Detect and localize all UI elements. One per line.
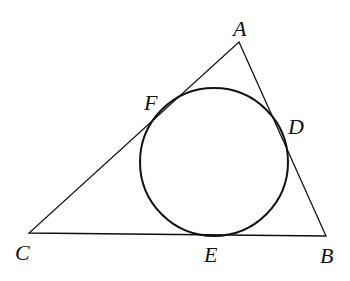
label-d: D [287,114,304,139]
label-b: B [320,243,333,268]
label-f: F [143,90,158,115]
incircle [140,88,288,236]
triangle-abc [29,42,326,236]
geometry-diagram: A F D C E B [0,0,350,281]
label-a: A [231,16,247,41]
label-e: E [203,242,218,267]
label-c: C [15,240,30,265]
